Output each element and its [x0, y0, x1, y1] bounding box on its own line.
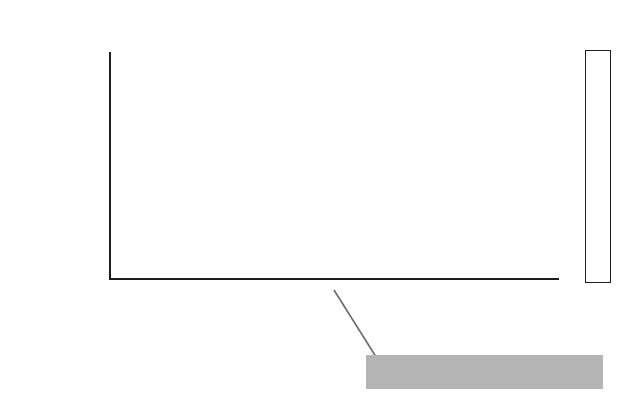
bars-container [110, 54, 558, 278]
chart-figure [0, 0, 628, 411]
x-axis-line [109, 278, 559, 280]
callout-leader-line [330, 288, 390, 364]
plot-area [110, 54, 558, 278]
callout-natural-ventilation [366, 355, 603, 389]
legend-scale [585, 50, 611, 283]
